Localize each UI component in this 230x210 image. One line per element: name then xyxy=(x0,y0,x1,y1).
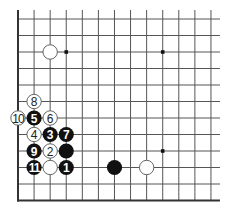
white-stone: 8 xyxy=(27,94,41,109)
black-stone: 5 xyxy=(26,110,41,125)
move-number-label: 3 xyxy=(47,128,54,142)
go-board: 8105643792111 xyxy=(0,0,230,210)
star-point-icon xyxy=(64,50,68,54)
move-number-label: 11 xyxy=(29,161,41,175)
black-stone: 9 xyxy=(26,143,41,158)
black-stone: 3 xyxy=(43,127,58,142)
star-point-icon xyxy=(161,149,165,153)
move-number-label: 7 xyxy=(63,128,70,142)
white-stone xyxy=(43,45,57,59)
black-stone-icon xyxy=(107,160,122,175)
star-point-icon xyxy=(161,50,165,54)
white-stone: 6 xyxy=(43,111,57,126)
move-number-label: 8 xyxy=(31,95,38,109)
black-stone: 1 xyxy=(59,160,74,175)
move-number-label: 4 xyxy=(31,128,38,142)
white-stone: 2 xyxy=(43,144,57,159)
black-stone: 11 xyxy=(26,160,41,175)
black-stone xyxy=(107,160,122,175)
move-number-label: 2 xyxy=(47,145,54,159)
move-number-label: 6 xyxy=(47,112,54,126)
move-number-label: 10 xyxy=(12,112,25,126)
white-stone: 10 xyxy=(11,111,25,126)
white-stone xyxy=(139,160,153,174)
black-stone: 7 xyxy=(59,127,74,142)
white-stone xyxy=(43,160,57,174)
white-stone-icon xyxy=(43,45,57,59)
black-stone-icon xyxy=(59,143,74,158)
white-stone-icon xyxy=(139,160,153,174)
move-number-label: 1 xyxy=(63,161,70,175)
white-stone-icon xyxy=(43,160,57,174)
move-number-label: 9 xyxy=(31,145,38,159)
white-stone: 4 xyxy=(27,127,41,142)
black-stone xyxy=(59,143,74,158)
move-number-label: 5 xyxy=(31,112,38,126)
